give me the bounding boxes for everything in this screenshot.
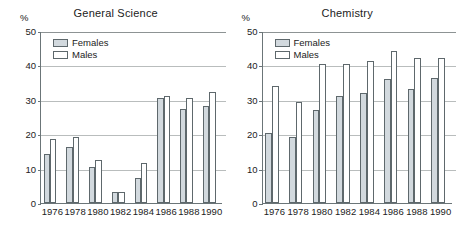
legend-swatch-males-icon (53, 51, 68, 59)
bar-females-1978 (66, 147, 72, 203)
bar-group: 1984 (358, 32, 382, 203)
y-tick-mark (259, 204, 263, 205)
bar-group: 1982 (109, 32, 132, 203)
bar-males-1990 (438, 58, 445, 204)
x-tick-label: 1986 (381, 207, 405, 217)
bar-males-1976 (50, 139, 56, 203)
plot-area: 0102030405019761978198019821984198619881… (40, 32, 222, 204)
y-tick-label: 10 (247, 165, 258, 175)
bar-group: 1986 (381, 32, 405, 203)
legend-label: Males (294, 50, 319, 60)
figure-root: General Science%010203040501976197819801… (0, 0, 463, 241)
bar-males-1984 (367, 61, 374, 203)
bar-males-1978 (73, 137, 79, 203)
bar-group: 1984 (132, 32, 155, 203)
y-tick-label: 50 (247, 27, 258, 37)
bar-females-1988 (408, 89, 415, 203)
y-axis-unit-label: % (242, 12, 250, 23)
chart-panel-1: General Science%010203040501976197819801… (0, 0, 232, 241)
y-tick-label: 30 (247, 96, 258, 106)
y-axis-unit-label: % (20, 12, 28, 23)
bar-males-1982 (343, 64, 350, 203)
x-tick-label: 1990 (429, 207, 453, 217)
y-tick-label: 20 (25, 130, 36, 140)
bar-males-1984 (141, 163, 147, 203)
y-tick-label: 50 (25, 27, 36, 37)
y-tick-label: 40 (247, 62, 258, 72)
bar-males-1982 (118, 192, 124, 203)
bar-females-1982 (336, 96, 343, 203)
bar-females-1990 (203, 106, 209, 203)
legend-item-females[interactable]: Females (53, 38, 108, 48)
x-tick-label: 1982 (334, 207, 358, 217)
bar-males-1986 (164, 96, 170, 203)
x-tick-label: 1986 (155, 207, 178, 217)
bar-females-1984 (135, 178, 141, 203)
bar-females-1976 (44, 154, 50, 203)
legend-item-males[interactable]: Males (275, 50, 330, 60)
bar-group: 1990 (200, 32, 223, 203)
x-tick-label: 1980 (310, 207, 334, 217)
y-tick-label: 0 (252, 199, 257, 209)
x-tick-label: 1980 (87, 207, 110, 217)
legend-swatch-males-icon (275, 51, 290, 59)
legend-swatch-females-icon (53, 39, 68, 47)
bar-females-1990 (431, 78, 438, 203)
bar-males-1980 (95, 160, 101, 203)
x-tick-label: 1976 (41, 207, 64, 217)
bar-females-1978 (289, 137, 296, 203)
plot-area: 0102030405019761978198019821984198619881… (262, 32, 452, 204)
y-tick-label: 0 (31, 199, 36, 209)
bar-females-1976 (265, 133, 272, 203)
y-tick-label: 10 (25, 165, 36, 175)
bar-males-1978 (296, 102, 303, 203)
bar-males-1976 (272, 86, 279, 203)
chart-panel-2: Chemistry%010203040501976197819801982198… (232, 0, 463, 241)
chart-title: Chemistry (232, 7, 463, 19)
legend-swatch-females-icon (275, 39, 290, 47)
y-tick-label: 20 (247, 130, 258, 140)
bar-females-1986 (157, 98, 163, 203)
x-tick-label: 1982 (109, 207, 132, 217)
x-tick-label: 1978 (286, 207, 310, 217)
bar-males-1988 (186, 98, 192, 203)
bar-males-1980 (319, 64, 326, 203)
legend-label: Females (294, 38, 330, 48)
legend-label: Females (72, 38, 108, 48)
bar-females-1982 (112, 192, 118, 203)
y-tick-label: 30 (25, 96, 36, 106)
bar-females-1988 (180, 109, 186, 203)
bar-females-1980 (313, 110, 320, 203)
bar-group: 1988 (405, 32, 429, 203)
bar-females-1986 (384, 79, 391, 203)
x-tick-label: 1990 (200, 207, 223, 217)
x-tick-label: 1988 (405, 207, 429, 217)
chart-title: General Science (0, 7, 232, 19)
x-tick-label: 1984 (132, 207, 155, 217)
legend-label: Males (72, 50, 97, 60)
x-tick-label: 1988 (178, 207, 201, 217)
bar-group: 1986 (155, 32, 178, 203)
bar-females-1984 (360, 93, 367, 203)
legend: FemalesMales (53, 38, 108, 60)
legend: FemalesMales (275, 38, 330, 60)
bar-group: 1982 (334, 32, 358, 203)
bar-males-1986 (391, 51, 398, 203)
y-tick-mark (38, 204, 42, 205)
bar-males-1990 (209, 92, 215, 203)
bar-group: 1988 (178, 32, 201, 203)
x-tick-label: 1984 (358, 207, 382, 217)
bar-females-1980 (89, 167, 95, 203)
bar-males-1988 (414, 58, 421, 204)
legend-item-females[interactable]: Females (275, 38, 330, 48)
y-tick-label: 40 (25, 62, 36, 72)
legend-item-males[interactable]: Males (53, 50, 108, 60)
x-tick-label: 1978 (64, 207, 87, 217)
x-tick-label: 1976 (263, 207, 287, 217)
bar-group: 1990 (429, 32, 453, 203)
